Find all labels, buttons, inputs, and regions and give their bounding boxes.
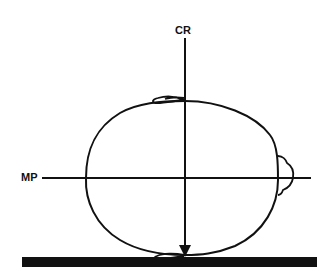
positioning-diagram [0, 0, 329, 277]
midsagittal-plane-label: MP [21, 172, 38, 183]
ear-icon [278, 156, 293, 195]
central-ray-label: CR [175, 25, 191, 36]
image-receptor-bar [22, 257, 317, 267]
